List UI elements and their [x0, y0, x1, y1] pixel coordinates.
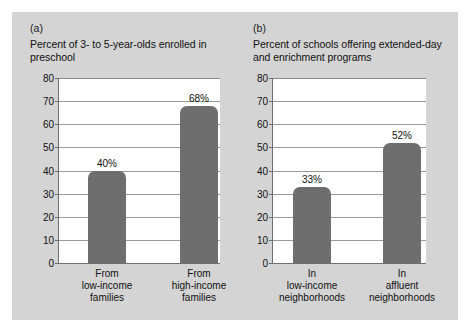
ytick-label-80: 80 [43, 73, 54, 84]
ytick-mark-60 [55, 124, 59, 125]
chart-panel-a: (a) Percent of 3- to 5-year-olds enrolle… [12, 12, 235, 320]
bar-b-1-value: 33% [302, 174, 322, 185]
bar-a-1[interactable]: 40% From low-income families [88, 171, 126, 264]
ytick-mark-10 [55, 240, 59, 241]
panel-b-tag: (b) [253, 22, 266, 34]
ytick-mark-40 [55, 171, 59, 172]
bar-a-2-category: From high-income families [153, 268, 245, 304]
ytick-label-b-20: 20 [257, 211, 268, 222]
ytick-mark-b-40 [269, 171, 273, 172]
panel-b-title: Percent of schools offering extended-day… [253, 38, 453, 64]
ytick-mark-b-80 [269, 78, 273, 79]
gridline-80: 80 [59, 78, 220, 79]
ytick-label-40: 40 [43, 165, 54, 176]
gridline-b-80: 80 [273, 78, 426, 79]
gridline-b-60: 60 [273, 124, 426, 125]
chart-panel-b: (b) Percent of schools offering extended… [235, 12, 458, 320]
ytick-label-50: 50 [43, 142, 54, 153]
bar-a-1-category: From low-income families [61, 268, 153, 304]
bar-a-2-value: 68% [189, 93, 209, 104]
ytick-label-b-30: 30 [257, 188, 268, 199]
ytick-mark-b-50 [269, 147, 273, 148]
ytick-label-60: 60 [43, 119, 54, 130]
ytick-label-20: 20 [43, 211, 54, 222]
ytick-mark-30 [55, 194, 59, 195]
bar-b-2-value: 52% [392, 130, 412, 141]
bar-a-2[interactable]: 68% From high-income families [180, 106, 218, 263]
ytick-mark-b-10 [269, 240, 273, 241]
ytick-mark-80 [55, 78, 59, 79]
ytick-label-b-80: 80 [257, 73, 268, 84]
figure-panel: (a) Percent of 3- to 5-year-olds enrolle… [12, 12, 458, 320]
ytick-label-b-50: 50 [257, 142, 268, 153]
bar-b-2[interactable]: 52% In affluent neighborhoods [383, 143, 421, 263]
ytick-mark-b-60 [269, 124, 273, 125]
gridline-0: 0 [59, 263, 220, 264]
bar-b-1[interactable]: 33% In low-income neighborhoods [293, 187, 331, 263]
ytick-label-0: 0 [48, 258, 54, 269]
ytick-label-b-0: 0 [262, 258, 268, 269]
ytick-label-b-60: 60 [257, 119, 268, 130]
bar-b-2-category: In affluent neighborhoods [356, 268, 448, 304]
ytick-label-30: 30 [43, 188, 54, 199]
gridline-b-70: 70 [273, 101, 426, 102]
gridline-b-0: 0 [273, 263, 426, 264]
ytick-label-10: 10 [43, 234, 54, 245]
ytick-mark-b-70 [269, 101, 273, 102]
bar-b-1-category: In low-income neighborhoods [266, 268, 358, 304]
ytick-mark-b-30 [269, 194, 273, 195]
ytick-label-b-40: 40 [257, 165, 268, 176]
ytick-mark-b-0 [269, 263, 273, 264]
plot-area-b: 80 70 60 50 40 30 20 10 0 33% In low-inc… [272, 78, 426, 264]
ytick-label-b-70: 70 [257, 96, 268, 107]
plot-area-a: 80 70 60 50 40 30 20 10 0 40% From low-i… [58, 78, 220, 264]
panel-a-tag: (a) [30, 22, 43, 34]
ytick-mark-50 [55, 147, 59, 148]
ytick-label-70: 70 [43, 96, 54, 107]
ytick-mark-0 [55, 263, 59, 264]
bar-a-1-value: 40% [97, 158, 117, 169]
ytick-mark-b-20 [269, 217, 273, 218]
ytick-label-b-10: 10 [257, 234, 268, 245]
ytick-mark-20 [55, 217, 59, 218]
panel-a-title: Percent of 3- to 5-year-olds enrolled in… [30, 38, 230, 64]
ytick-mark-70 [55, 101, 59, 102]
